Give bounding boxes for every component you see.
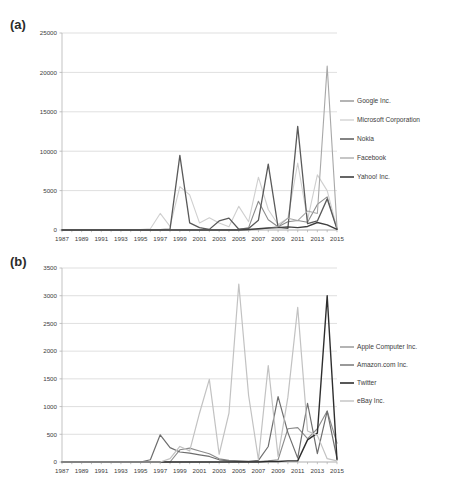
x-axis-tick-label: 1995 [134, 467, 148, 474]
legend-label: Facebook [357, 154, 387, 161]
legend-label: Apple Computer Inc. [357, 343, 417, 351]
x-axis-tick-label: 2007 [252, 467, 266, 474]
legend-label: Yahoo! Inc. [357, 173, 390, 180]
y-axis-tick-label: 1500 [43, 375, 57, 382]
legend-label: Microsoft Corporation [357, 116, 420, 124]
legend-label: Twitter [357, 379, 377, 386]
x-axis-tick-label: 2003 [212, 467, 226, 474]
figure-panel-b: (b) 050010001500200025003000350019871989… [0, 250, 455, 497]
y-axis-tick-label: 20000 [40, 69, 58, 76]
x-axis-tick-label: 1995 [134, 235, 148, 242]
x-axis-tick-label: 2011 [291, 235, 305, 242]
legend-label: Google Inc. [357, 97, 391, 105]
chart-b: 0500100015002000250030003500198719891991… [0, 250, 455, 497]
x-axis-tick-label: 2001 [193, 235, 207, 242]
x-axis-tick-label: 1993 [114, 235, 128, 242]
x-axis-tick-label: 2007 [252, 235, 266, 242]
x-axis-tick-label: 1991 [94, 467, 108, 474]
x-axis-tick-label: 2015 [330, 235, 344, 242]
y-axis-tick-label: 1000 [43, 403, 57, 410]
y-axis-tick-label: 2000 [43, 347, 57, 354]
x-axis-tick-label: 1999 [173, 235, 187, 242]
x-axis-tick-label: 2009 [271, 235, 285, 242]
y-axis-tick-label: 0 [54, 226, 58, 233]
x-axis-tick-label: 2009 [271, 467, 285, 474]
figure-panel-a: (a) 050001000015000200002500019871989199… [0, 0, 455, 250]
y-axis-tick-label: 500 [47, 431, 58, 438]
y-axis-tick-label: 3500 [43, 264, 57, 271]
x-axis-tick-label: 1997 [153, 235, 167, 242]
legend-label: Nokia [357, 135, 374, 142]
x-axis-tick-label: 1989 [75, 235, 89, 242]
x-axis-tick-label: 1987 [55, 235, 69, 242]
series-line-yahoo-inc [62, 223, 337, 230]
x-axis-tick-label: 1997 [153, 467, 167, 474]
x-axis-tick-label: 2013 [310, 467, 324, 474]
x-axis-tick-label: 2005 [232, 467, 246, 474]
chart-a: 0500010000150002000025000198719891991199… [0, 0, 455, 250]
legend-label: eBay Inc. [357, 397, 385, 405]
legend-label: Amazon.com Inc. [357, 361, 408, 368]
y-axis-tick-label: 5000 [43, 187, 57, 194]
x-axis-tick-label: 1993 [114, 467, 128, 474]
y-axis-tick-label: 0 [54, 458, 58, 465]
x-axis-tick-label: 2001 [193, 467, 207, 474]
x-axis-tick-label: 2013 [310, 235, 324, 242]
y-axis-tick-label: 2500 [43, 320, 57, 327]
x-axis-tick-label: 2015 [330, 467, 344, 474]
x-axis-tick-label: 1999 [173, 467, 187, 474]
y-axis-tick-label: 15000 [40, 108, 58, 115]
y-axis-tick-label: 10000 [40, 148, 58, 155]
x-axis-tick-label: 2003 [212, 235, 226, 242]
x-axis-tick-label: 2005 [232, 235, 246, 242]
x-axis-tick-label: 1987 [55, 467, 69, 474]
y-axis-tick-label: 3000 [43, 292, 57, 299]
x-axis-tick-label: 1991 [94, 235, 108, 242]
y-axis-tick-label: 25000 [40, 29, 58, 36]
x-axis-tick-label: 1989 [75, 467, 89, 474]
series-line-ebay-inc [62, 284, 337, 462]
x-axis-tick-label: 2011 [291, 467, 305, 474]
series-line-google-inc [62, 197, 337, 230]
series-line-nokia [62, 126, 337, 230]
